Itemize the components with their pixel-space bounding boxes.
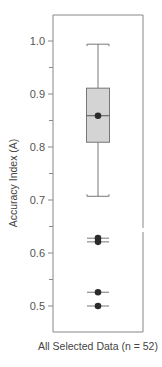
median-dot	[95, 112, 102, 119]
outlier-point	[95, 303, 102, 310]
y-axis-title: Accuracy Index (A)	[7, 139, 19, 228]
y-tick-label: 0.6	[30, 247, 45, 259]
y-tick-label: 0.7	[30, 194, 45, 206]
box-plot-chart: 0.50.60.70.80.91.0 Accuracy Index (A) Al…	[0, 0, 162, 367]
y-tick-label: 1.0	[30, 35, 45, 47]
y-tick-label: 0.5	[30, 300, 45, 312]
y-tick-label: 0.9	[30, 88, 45, 100]
box-plot	[87, 44, 110, 309]
y-tick-label: 0.8	[30, 141, 45, 153]
y-axis: 0.50.60.70.80.91.0	[30, 35, 53, 312]
outlier-point	[95, 239, 102, 246]
x-axis-title: All Selected Data (n = 52)	[38, 340, 158, 352]
outlier-point	[95, 289, 102, 296]
